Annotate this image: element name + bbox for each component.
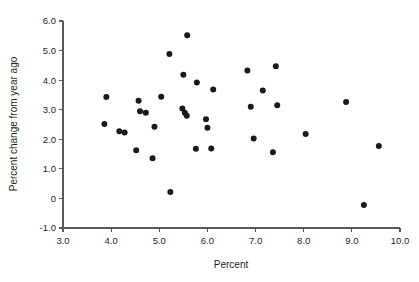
axes: [63, 21, 400, 228]
x-tick-label: 10.0: [391, 235, 410, 246]
data-point: [136, 98, 142, 104]
data-point: [376, 143, 382, 149]
y-axis-ticks: [59, 21, 63, 228]
y-tick-label: 4.0: [43, 75, 56, 86]
x-axis-tick-labels: 3.04.05.06.07.08.09.010.0: [56, 235, 409, 246]
data-point: [273, 63, 279, 69]
y-axis-title: Percent change from year ago: [8, 56, 19, 191]
data-point: [361, 202, 367, 208]
data-point: [270, 149, 276, 155]
scatter-plot-figure: -1.001.02.03.04.05.06.0 3.04.05.06.07.08…: [0, 0, 419, 282]
x-tick-label: 8.0: [297, 235, 310, 246]
data-point: [103, 94, 109, 100]
data-point: [116, 128, 122, 134]
y-tick-label: 3.0: [43, 104, 56, 115]
y-axis-tick-labels: -1.001.02.03.04.05.06.0: [40, 15, 56, 233]
y-tick-label: -1.0: [40, 222, 56, 233]
data-point: [204, 125, 210, 131]
data-point: [166, 51, 172, 57]
x-tick-label: 5.0: [153, 235, 166, 246]
data-point: [101, 121, 107, 127]
data-point: [194, 80, 200, 86]
x-tick-label: 7.0: [249, 235, 262, 246]
data-point: [143, 110, 149, 116]
data-point: [137, 108, 143, 114]
data-point: [303, 131, 309, 137]
x-tick-label: 4.0: [105, 235, 118, 246]
data-point: [210, 87, 216, 93]
data-point: [184, 113, 190, 119]
data-point: [251, 135, 257, 141]
data-point: [167, 189, 173, 195]
data-point: [180, 72, 186, 78]
x-tick-label: 6.0: [201, 235, 214, 246]
y-tick-label: 0: [51, 193, 56, 204]
data-points-layer: [101, 32, 381, 208]
data-point: [274, 102, 280, 108]
data-point: [260, 87, 266, 93]
data-point: [122, 129, 128, 135]
data-point: [244, 67, 250, 73]
data-point: [133, 147, 139, 153]
y-tick-label: 1.0: [43, 163, 56, 174]
chart-canvas: -1.001.02.03.04.05.06.0 3.04.05.06.07.08…: [0, 0, 419, 282]
x-tick-label: 9.0: [345, 235, 358, 246]
x-axis-ticks: [63, 228, 400, 232]
y-tick-label: 2.0: [43, 134, 56, 145]
data-point: [248, 104, 254, 110]
y-tick-label: 5.0: [43, 45, 56, 56]
data-point: [208, 145, 214, 151]
x-tick-label: 3.0: [56, 235, 69, 246]
y-tick-label: 6.0: [43, 15, 56, 26]
data-point: [343, 99, 349, 105]
data-point: [203, 116, 209, 122]
data-point: [184, 32, 190, 38]
data-point: [150, 155, 156, 161]
data-point: [151, 124, 157, 130]
data-point: [158, 94, 164, 100]
x-axis-title: Percent: [214, 259, 249, 270]
data-point: [193, 146, 199, 152]
